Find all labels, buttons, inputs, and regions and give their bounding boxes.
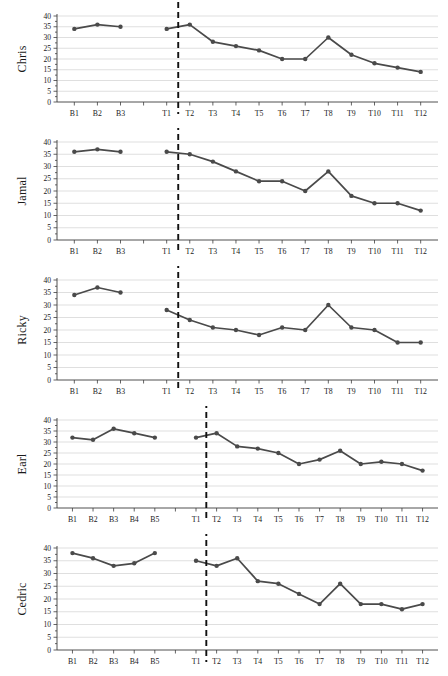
- x-tick-label: T8: [336, 657, 345, 666]
- y-tick-label: 5: [47, 633, 51, 642]
- y-tick-label: 0: [47, 236, 51, 245]
- data-point-marker: [95, 22, 99, 26]
- y-tick-label: 10: [43, 211, 51, 220]
- x-tick-label: T4: [232, 109, 241, 118]
- data-point-marker: [211, 325, 215, 329]
- x-tick-label: T6: [295, 657, 304, 666]
- x-tick-label: T9: [347, 387, 356, 396]
- panel-plot-area: 0510152025303540B1B2B3T1T2T3T4T5T6T7T8T9…: [0, 128, 448, 266]
- y-tick-label: 10: [43, 76, 51, 85]
- data-point-marker: [395, 65, 399, 69]
- panel-plot-area: 0510152025303540B1B2B3B4B5T1T2T3T4T5T6T7…: [0, 534, 448, 676]
- y-tick-label: 35: [43, 288, 51, 297]
- x-tick-label: B2: [93, 247, 102, 256]
- data-point-marker: [188, 318, 192, 322]
- data-point-marker: [118, 290, 122, 294]
- data-point-marker: [111, 564, 115, 568]
- x-tick-label: B1: [70, 109, 79, 118]
- x-tick-label: B1: [68, 657, 77, 666]
- x-tick-label: T6: [278, 247, 287, 256]
- y-tick-label: 35: [43, 150, 51, 159]
- panel-y-axis-label: Ricky: [15, 315, 29, 345]
- y-tick-label: 40: [43, 544, 51, 553]
- data-point-marker: [400, 607, 404, 611]
- x-tick-label: B5: [150, 657, 159, 666]
- data-point-marker: [420, 602, 424, 606]
- y-tick-label: 40: [43, 138, 51, 147]
- data-point-marker: [164, 27, 168, 31]
- data-point-marker: [297, 592, 301, 596]
- treatment-series-line: [167, 305, 421, 343]
- y-tick-label: 40: [43, 416, 51, 425]
- x-tick-label: T7: [301, 247, 310, 256]
- data-point-marker: [118, 150, 122, 154]
- data-point-marker: [91, 438, 95, 442]
- chart-panel-cedric: 0510152025303540B1B2B3B4B5T1T2T3T4T5T6T7…: [0, 534, 448, 676]
- x-tick-label: T6: [278, 387, 287, 396]
- data-point-marker: [349, 53, 353, 57]
- x-tick-label: T3: [233, 657, 242, 666]
- x-tick-label: T1: [192, 515, 201, 524]
- y-tick-label: 5: [47, 223, 51, 232]
- y-tick-label: 20: [43, 595, 51, 604]
- data-point-marker: [72, 150, 76, 154]
- data-point-marker: [276, 582, 280, 586]
- x-tick-label: T1: [162, 109, 171, 118]
- y-tick-label: 15: [43, 338, 51, 347]
- x-tick-label: T7: [301, 109, 310, 118]
- x-tick-label: T9: [347, 109, 356, 118]
- x-tick-label: T11: [391, 247, 403, 256]
- x-tick-label: B1: [70, 247, 79, 256]
- y-tick-label: 0: [47, 504, 51, 513]
- x-tick-label: T5: [274, 657, 283, 666]
- data-point-marker: [372, 61, 376, 65]
- y-tick-label: 30: [43, 301, 51, 310]
- data-point-marker: [188, 152, 192, 156]
- data-point-marker: [297, 462, 301, 466]
- x-tick-label: B3: [116, 109, 125, 118]
- x-tick-label: T6: [295, 515, 304, 524]
- x-tick-label: T2: [185, 247, 194, 256]
- data-point-marker: [111, 427, 115, 431]
- x-tick-label: T10: [368, 247, 381, 256]
- x-tick-label: B3: [116, 247, 125, 256]
- data-point-marker: [280, 57, 284, 61]
- x-tick-label: T1: [162, 387, 171, 396]
- x-tick-label: B3: [109, 515, 118, 524]
- data-point-marker: [257, 48, 261, 52]
- x-tick-label: B1: [70, 387, 79, 396]
- x-tick-label: T9: [356, 515, 365, 524]
- x-tick-label: T4: [253, 515, 262, 524]
- x-tick-label: B3: [116, 387, 125, 396]
- y-tick-label: 25: [43, 582, 51, 591]
- y-tick-label: 20: [43, 187, 51, 196]
- data-point-marker: [418, 340, 422, 344]
- y-tick-label: 0: [47, 98, 51, 107]
- x-tick-label: B2: [88, 657, 97, 666]
- data-point-marker: [303, 328, 307, 332]
- y-tick-label: 15: [43, 471, 51, 480]
- y-tick-label: 30: [43, 162, 51, 171]
- x-tick-label: T3: [233, 515, 242, 524]
- data-point-marker: [256, 579, 260, 583]
- x-tick-label: T10: [368, 387, 381, 396]
- y-tick-label: 15: [43, 199, 51, 208]
- y-tick-label: 35: [43, 22, 51, 31]
- x-tick-label: T1: [192, 657, 201, 666]
- data-point-marker: [395, 201, 399, 205]
- y-tick-label: 15: [43, 607, 51, 616]
- panel-y-axis-label: Jamal: [15, 176, 29, 205]
- x-tick-label: T11: [391, 109, 403, 118]
- x-tick-label: T3: [209, 387, 218, 396]
- y-tick-label: 40: [43, 276, 51, 285]
- y-tick-label: 35: [43, 556, 51, 565]
- data-point-marker: [418, 208, 422, 212]
- y-tick-label: 5: [47, 87, 51, 96]
- x-tick-label: T11: [396, 515, 408, 524]
- x-tick-label: T12: [414, 247, 427, 256]
- y-tick-label: 25: [43, 313, 51, 322]
- data-point-marker: [95, 147, 99, 151]
- data-point-marker: [359, 602, 363, 606]
- y-tick-label: 25: [43, 449, 51, 458]
- panel-plot-area: 0510152025303540B1B2B3B4B5T1T2T3T4T5T6T7…: [0, 406, 448, 534]
